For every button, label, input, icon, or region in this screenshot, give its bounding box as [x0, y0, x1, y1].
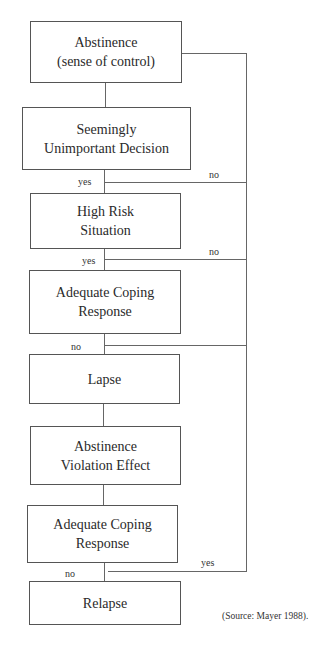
- connector-n7-n8: [104, 562, 105, 581]
- edge-label-n3-no: no: [209, 246, 219, 257]
- feedback-return-line: [246, 53, 247, 572]
- node-seemingly-unimportant-decision: Seemingly Unimportant Decision: [22, 107, 191, 170]
- connector-n7-yes: [108, 571, 246, 572]
- edge-label-n2-yes: yes: [78, 176, 91, 187]
- edge-label-n3-yes: yes: [82, 255, 95, 266]
- node-label: Abstinence (sense of control): [57, 33, 155, 71]
- connector-n5-n6: [103, 403, 104, 426]
- connector-n2-no: [105, 182, 246, 183]
- connector-n6-n7: [103, 484, 104, 505]
- node-relapse: Relapse: [29, 581, 181, 625]
- connector-n3-no: [105, 259, 246, 260]
- connector-n4-n5: [104, 333, 105, 354]
- edge-label-n4-no: no: [71, 341, 81, 352]
- connector-n2-n3: [104, 169, 105, 193]
- source-citation: (Source: Mayer 1988).: [222, 611, 308, 621]
- node-label: Seemingly Unimportant Decision: [44, 120, 169, 158]
- connector-n1-feedback: [181, 53, 246, 54]
- node-adequate-coping-response-2: Adequate Coping Response: [27, 505, 178, 563]
- edge-label-n7-yes: yes: [201, 557, 214, 568]
- node-abstinence: Abstinence (sense of control): [30, 21, 182, 83]
- edge-label-n7-no: no: [65, 568, 75, 579]
- node-adequate-coping-response-1: Adequate Coping Response: [29, 270, 181, 334]
- node-abstinence-violation-effect: Abstinence Violation Effect: [30, 426, 181, 485]
- node-lapse: Lapse: [29, 354, 180, 404]
- node-label: Abstinence Violation Effect: [61, 437, 150, 475]
- edge-label-n2-no: no: [209, 169, 219, 180]
- node-label: Adequate Coping Response: [53, 515, 151, 553]
- node-label: High Risk Situation: [77, 202, 134, 240]
- node-label: Adequate Coping Response: [56, 283, 154, 321]
- node-label: Lapse: [88, 370, 121, 389]
- connector-n1-n2: [105, 82, 106, 107]
- node-label: Relapse: [83, 594, 127, 613]
- node-high-risk-situation: High Risk Situation: [30, 193, 181, 249]
- connector-n4-no: [105, 345, 246, 346]
